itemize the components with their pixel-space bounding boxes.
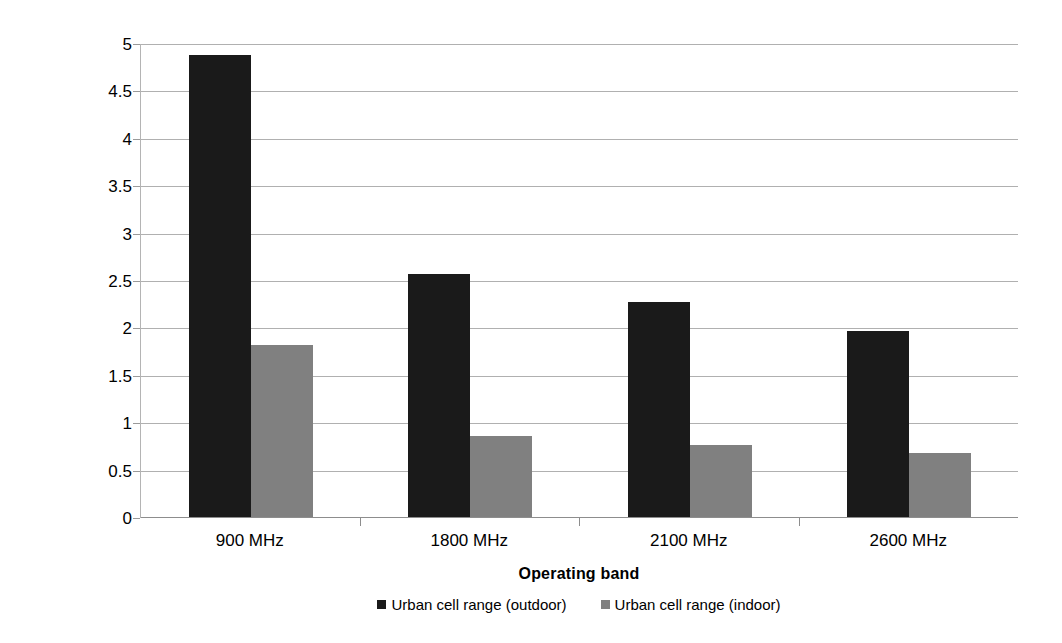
y-axis-tick-mark [133, 281, 140, 282]
bars-layer [141, 44, 1018, 518]
y-axis-title: Cell range [km] [20, 0, 50, 74]
bar-group [847, 44, 971, 518]
y-axis-tick-mark [133, 518, 140, 519]
bar-chart: Cell range [km] 54.543.532.521.510.50 90… [0, 0, 1062, 643]
legend-item: Urban cell range (indoor) [601, 596, 781, 613]
bar [251, 345, 313, 518]
x-axis-tick-label: 2100 MHz [650, 531, 727, 551]
x-axis-tick-label: 2600 MHz [870, 531, 947, 551]
y-axis-tick-label: 3.5 [78, 178, 132, 195]
y-axis-tick-label: 4.5 [78, 83, 132, 100]
bar [470, 436, 532, 518]
y-axis-tick-mark [133, 234, 140, 235]
y-axis-tick-label: 4 [78, 130, 132, 147]
bar [690, 445, 752, 518]
bar [628, 302, 690, 518]
legend-swatch-icon [601, 600, 610, 609]
bar [847, 331, 909, 518]
y-axis-tick-mark [133, 186, 140, 187]
legend-label: Urban cell range (outdoor) [391, 596, 566, 613]
y-axis-tick-mark [133, 376, 140, 377]
bar-group [408, 44, 532, 518]
x-axis-tick-mark [360, 518, 361, 526]
bar [189, 55, 251, 518]
y-axis-tick-labels: 54.543.532.521.510.50 [78, 44, 140, 518]
x-axis-tick-mark [579, 518, 580, 526]
x-axis-tick-labels: 900 MHz1800 MHz2100 MHz2600 MHz [140, 518, 1018, 560]
y-axis-tick-label: 0.5 [78, 462, 132, 479]
y-axis-tick-mark [133, 423, 140, 424]
x-axis-tick-label: 900 MHz [216, 531, 284, 551]
y-axis-tick-label: 5 [78, 36, 132, 53]
bar-group [628, 44, 752, 518]
y-axis-tick-label: 3 [78, 225, 132, 242]
bar-group [189, 44, 313, 518]
y-axis-tick-mark [133, 91, 140, 92]
legend-swatch-icon [377, 600, 386, 609]
legend-label: Urban cell range (indoor) [615, 596, 781, 613]
y-axis-tick-mark [133, 328, 140, 329]
x-axis-title: Operating band [140, 565, 1018, 583]
plot-area [140, 44, 1018, 518]
y-axis-tick-label: 1 [78, 415, 132, 432]
y-axis-tick-label: 2.5 [78, 273, 132, 290]
y-axis-tick-mark [133, 44, 140, 45]
bar [408, 274, 470, 518]
y-axis-tick-mark [133, 139, 140, 140]
legend: Urban cell range (outdoor)Urban cell ran… [140, 596, 1018, 613]
y-axis-tick-label: 0 [78, 510, 132, 527]
y-axis-tick-mark [133, 471, 140, 472]
legend-item: Urban cell range (outdoor) [377, 596, 566, 613]
y-axis-tick-label: 1.5 [78, 367, 132, 384]
x-axis-tick-label: 1800 MHz [431, 531, 508, 551]
bar [909, 453, 971, 518]
x-axis-tick-mark [799, 518, 800, 526]
y-axis-tick-label: 2 [78, 320, 132, 337]
